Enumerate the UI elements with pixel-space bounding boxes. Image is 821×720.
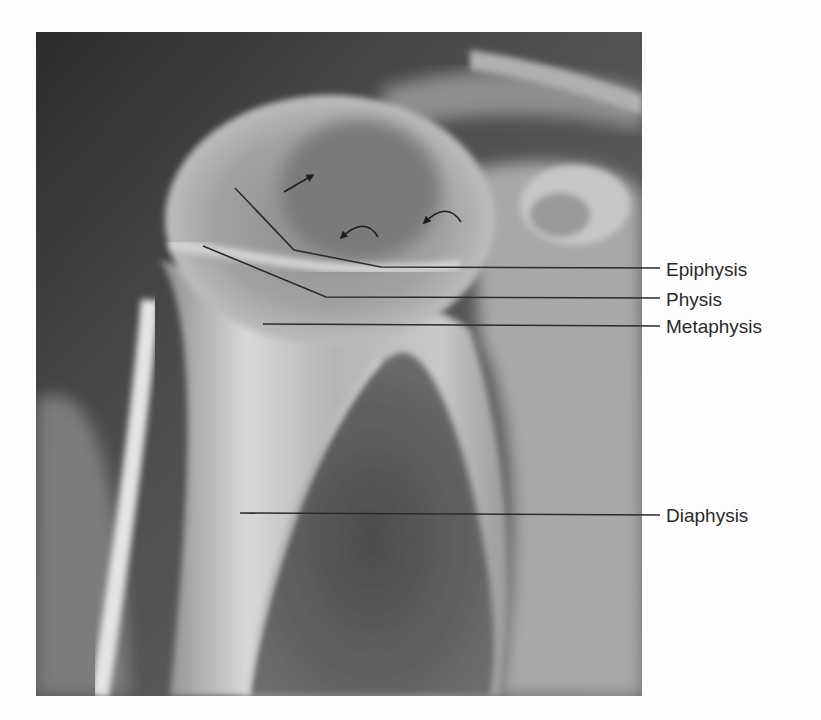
xray-image — [36, 32, 642, 696]
label-epiphysis: Epiphysis — [666, 260, 747, 279]
label-diaphysis: Diaphysis — [666, 506, 748, 525]
label-metaphysis: Metaphysis — [666, 317, 762, 336]
xray-figure — [0, 0, 821, 720]
label-physis: Physis — [666, 290, 722, 309]
